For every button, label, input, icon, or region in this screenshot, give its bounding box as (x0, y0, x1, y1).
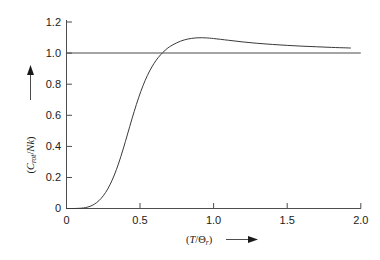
y-tick-label-6: 1.2 (46, 16, 61, 28)
y-tick-label-4: 0.8 (46, 78, 61, 90)
y-tick-label-0: 0 (55, 202, 61, 214)
x-tick-label-3: 1.5 (280, 214, 295, 226)
y-tick-label-3: 0.6 (46, 109, 61, 121)
x-tick-label-1: 0.5 (132, 214, 147, 226)
y-tick-label-2: 0.4 (46, 140, 61, 152)
x-tick-label-2: 1.0 (206, 214, 221, 226)
x-tick-label-0: 0 (63, 214, 69, 226)
x-title-close-paren: ) (209, 234, 213, 246)
y-tick-label-5: 1.0 (46, 47, 61, 59)
rotational-heat-capacity-chart: 0 0.2 0.4 0.6 0.8 1.0 1.2 0 0.5 1.0 1.5 … (0, 0, 380, 260)
y-title-denominator: Nk (25, 140, 36, 153)
y-title-close-paren: ) (25, 136, 37, 140)
x-tick-label-4: 2.0 (353, 214, 368, 226)
chart-screenshot: 0 0.2 0.4 0.6 0.8 1.0 1.2 0 0.5 1.0 1.5 … (0, 0, 380, 260)
y-tick-label-1: 0.2 (46, 171, 61, 183)
